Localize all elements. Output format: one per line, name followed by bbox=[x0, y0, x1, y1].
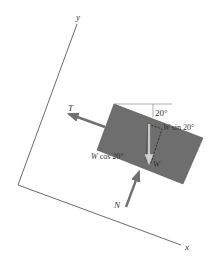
normal-force-arrow bbox=[126, 172, 139, 207]
x-axis-label: x bbox=[184, 242, 189, 252]
tension-arrow bbox=[69, 114, 105, 127]
x-axis-line bbox=[18, 185, 181, 245]
w-cos-20-label: W cos 20° bbox=[91, 152, 124, 161]
angle-label: 20° bbox=[155, 108, 168, 118]
w-sin-20-label: W sin 20° bbox=[163, 123, 194, 132]
normal-force-label: N bbox=[113, 200, 121, 210]
tension-label: T bbox=[68, 103, 74, 113]
free-body-diagram: y x 20° T N W W sin 20° W cos 20° bbox=[0, 0, 216, 265]
y-axis-label: y bbox=[75, 12, 80, 22]
weight-label: W bbox=[153, 159, 161, 169]
